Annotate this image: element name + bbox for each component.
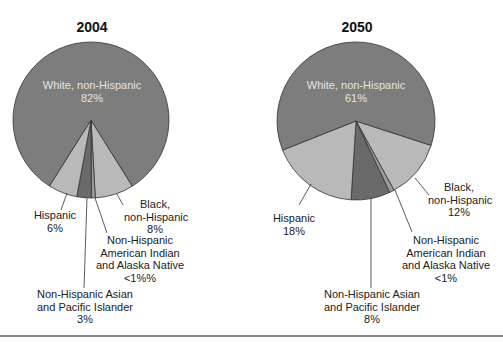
- label-2004-hispanic: Hispanic 6%: [30, 209, 80, 234]
- label-2050-asian: Non-Hispanic Asian and Pacific Islander …: [322, 288, 422, 326]
- pie-2004: [13, 42, 169, 198]
- label-2050-white: White, non-Hispanic 61%: [306, 79, 406, 104]
- pie-2050: [277, 42, 435, 200]
- chart-title-2004: 2004: [52, 19, 132, 35]
- label-2050-aian: Non-Hispanic American Indian and Alaska …: [402, 234, 490, 284]
- label-2004-white: White, non-Hispanic 82%: [42, 79, 142, 104]
- label-2004-aian: Non-Hispanic American Indian and Alaska …: [96, 234, 184, 284]
- chart-title-2050: 2050: [317, 19, 397, 35]
- label-2050-hispanic: Hispanic 18%: [269, 212, 319, 237]
- label-2004-black: Black, non-Hispanic 8%: [124, 198, 186, 236]
- label-2004-asian: Non-Hispanic Asian and Pacific Islander …: [35, 288, 135, 326]
- label-2050-black: Black, non-Hispanic 12%: [428, 181, 490, 219]
- bottom-divider: [0, 335, 503, 337]
